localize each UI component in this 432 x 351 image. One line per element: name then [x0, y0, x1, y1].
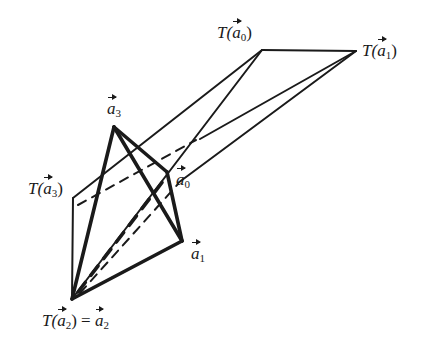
label-a3: a3 [107, 100, 121, 119]
edge-a3-a0 [114, 127, 167, 172]
label-Ta1: T(a1) [362, 42, 397, 61]
edge-Ta0-Ta1 [262, 50, 356, 51]
edge-Ta1-Ta2 [200, 51, 356, 139]
hidden-edge-a2-a0 [78, 176, 167, 292]
edge-a1-a2 [72, 241, 182, 299]
edge-a3-a1 [114, 127, 182, 241]
label-a1: a1 [191, 245, 205, 264]
edge-Ta3-Ta2 [72, 198, 73, 299]
label-Ta0: T(a0) [217, 24, 252, 43]
edge-Ta1-a1dir [178, 51, 356, 183]
label-Ta3: T(a3) [28, 180, 63, 199]
label-a0: a0 [176, 171, 190, 190]
label-Ta2-equals-a2: T(a2) = a2 [42, 312, 109, 331]
